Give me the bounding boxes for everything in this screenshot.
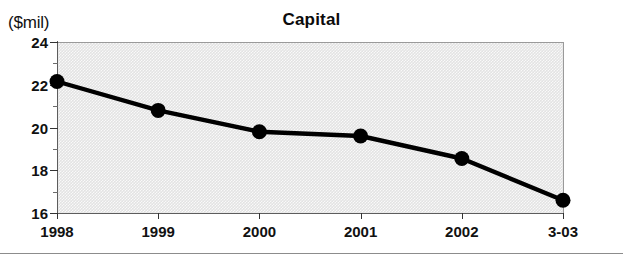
y-tick-label: 18	[2, 162, 48, 179]
x-tick-label: 2000	[219, 223, 299, 240]
y-tick-label: 20	[2, 119, 48, 136]
x-tick-label: 2002	[422, 223, 502, 240]
x-tick	[563, 213, 564, 219]
x-tick	[57, 213, 58, 219]
y-tick-label: 24	[2, 34, 48, 51]
y-tick-major	[50, 85, 58, 86]
y-tick-label: 22	[2, 76, 48, 93]
y-tick-label: 16	[2, 205, 48, 222]
y-tick-minor	[53, 149, 58, 150]
x-tick	[462, 213, 463, 219]
x-axis-line	[57, 213, 564, 214]
x-tick	[158, 213, 159, 219]
y-tick-minor	[53, 192, 58, 193]
capital-chart-figure: ($mil) Capital 1618202224 19981999200020…	[0, 0, 623, 262]
x-tick-label: 1999	[118, 223, 198, 240]
y-tick-major	[50, 128, 58, 129]
x-tick	[259, 213, 260, 219]
plot-area	[57, 42, 564, 214]
y-tick-major	[50, 42, 58, 43]
x-tick-label: 3-03	[523, 223, 603, 240]
x-tick	[361, 213, 362, 219]
x-tick-label: 1998	[17, 223, 97, 240]
y-tick-minor	[53, 106, 58, 107]
x-tick-label: 2001	[321, 223, 401, 240]
y-tick-major	[50, 170, 58, 171]
figure-bottom-rule	[0, 253, 623, 254]
y-tick-minor	[53, 63, 58, 64]
chart-title: Capital	[0, 10, 623, 30]
